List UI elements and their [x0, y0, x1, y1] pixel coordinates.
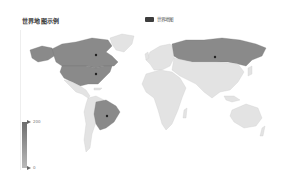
marker-canada[interactable]: [95, 54, 97, 56]
visual-map-max-label: 200: [33, 119, 41, 124]
visual-map-min-handle[interactable]: [27, 166, 31, 170]
region-caribbean[interactable]: [94, 88, 102, 90]
region-africa[interactable]: [142, 70, 186, 130]
marker-brazil[interactable]: [106, 115, 108, 117]
region-australia[interactable]: [230, 104, 262, 128]
region-canada[interactable]: [50, 38, 118, 68]
visual-map-max-handle[interactable]: [27, 120, 31, 124]
region-alaska[interactable]: [30, 46, 54, 62]
region-greenland[interactable]: [110, 34, 134, 52]
world-map: [0, 0, 283, 182]
chart-container: 世界地图示例 世界地图: [0, 0, 283, 182]
region-europe[interactable]: [146, 44, 176, 70]
visual-map[interactable]: 200 0: [22, 120, 42, 174]
marker-united-states[interactable]: [95, 73, 97, 75]
region-japan[interactable]: [248, 66, 252, 76]
region-madagascar[interactable]: [183, 108, 187, 118]
marker-russia[interactable]: [214, 56, 216, 58]
region-new-zealand[interactable]: [260, 126, 265, 136]
region-southeast-asia[interactable]: [224, 96, 240, 102]
visual-map-min-label: 0: [33, 165, 36, 170]
visual-map-gradient-bar[interactable]: [22, 122, 27, 168]
